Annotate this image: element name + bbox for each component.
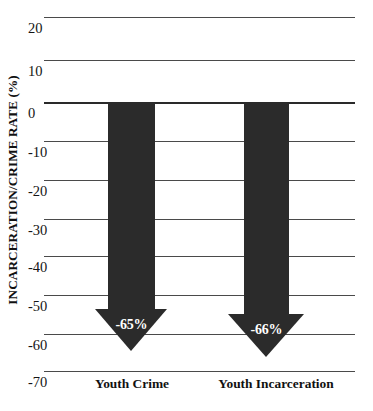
- ytick-label-10: 10: [28, 64, 60, 79]
- ytick-label-neg70: -70: [28, 375, 60, 390]
- chart-container: INCARCERATION/CRIME RATE (%) 20 10 0 -10…: [0, 0, 373, 411]
- gridline-neg20: [44, 180, 355, 181]
- y-axis-title-text: INCARCERATION/CRIME RATE (%): [5, 75, 21, 304]
- gridline-neg10: [44, 141, 355, 142]
- bar-value-youth-crime: -65%: [95, 317, 168, 333]
- plot-area: 20 10 0 -10 -20 -30 -40 -50 -60 -70 -65%…: [28, 0, 373, 411]
- ytick-label-neg20: -20: [28, 184, 60, 199]
- gridline-10: [44, 60, 355, 61]
- ytick-label-neg30: -30: [28, 223, 60, 238]
- ytick-label-neg40: -40: [28, 260, 60, 275]
- bar-shaft-youth-crime: [108, 103, 155, 311]
- ytick-label-neg60: -60: [28, 338, 60, 353]
- bar-shaft-youth-incarceration: [244, 103, 289, 316]
- xtick-label-youth-crime: Youth Crime: [68, 377, 196, 390]
- gridline-neg40: [44, 256, 355, 257]
- ytick-label-neg10: -10: [28, 145, 60, 160]
- gridline-neg60: [44, 334, 355, 335]
- gridline-neg30: [44, 219, 355, 220]
- ytick-label-20: 20: [28, 21, 60, 36]
- bar-value-youth-incarceration: -66%: [228, 322, 305, 338]
- gridline-20: [44, 17, 355, 18]
- xtick-label-youth-incarceration: Youth Incarceration: [196, 377, 356, 390]
- gridline-neg50: [44, 295, 355, 296]
- ytick-label-0: 0: [28, 106, 60, 121]
- y-axis-title: INCARCERATION/CRIME RATE (%): [0, 0, 26, 380]
- ytick-label-neg50: -50: [28, 299, 60, 314]
- gridline-0: [44, 102, 355, 104]
- gridline-neg70: [44, 371, 355, 372]
